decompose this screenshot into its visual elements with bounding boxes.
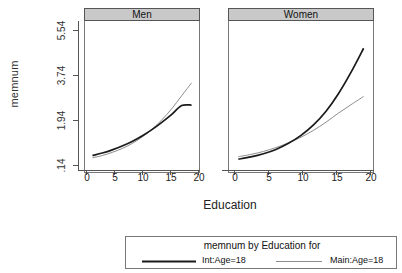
y-tick-mark-3	[73, 30, 78, 31]
y-axis-line	[78, 21, 79, 170]
x-tick-label-women-0: 0	[225, 172, 245, 183]
legend-key-line-main	[276, 260, 322, 263]
panel-women: Women	[228, 8, 374, 173]
y-tick-mark-0	[73, 165, 78, 166]
curves-men	[85, 21, 199, 171]
x-axis-line-women	[222, 170, 374, 171]
legend-label-main: Main:Age=18	[330, 255, 383, 265]
panel-strip-women: Women	[228, 8, 374, 21]
panel-men: Men	[84, 8, 200, 173]
x-tick-label-women-4: 20	[361, 172, 381, 183]
curves-women	[229, 21, 373, 171]
legend: memnum by Education for Int:Age=18 Main:…	[125, 236, 397, 269]
x-tick-label-men-4: 20	[189, 172, 209, 183]
y-axis-label: memnum	[8, 54, 20, 114]
x-axis-line-men	[78, 170, 200, 171]
x-tick-label-women-2: 10	[293, 172, 313, 183]
trellis-chart: memnum .14 1.94 3.74 5.54 Men Women	[0, 0, 402, 273]
y-tick-label-1: 1.94	[56, 104, 67, 138]
y-tick-label-2: 3.74	[56, 59, 67, 93]
plot-area-men	[84, 21, 200, 173]
legend-label-int: Int:Age=18	[202, 255, 246, 265]
x-tick-label-men-1: 5	[105, 172, 125, 183]
y-tick-mark-1	[73, 120, 78, 121]
panel-strip-men: Men	[84, 8, 200, 21]
legend-key-line-int	[142, 260, 196, 263]
legend-title: memnum by Education for	[126, 240, 398, 251]
plot-area-women	[228, 21, 374, 173]
x-axis-label: Education	[85, 198, 375, 212]
y-tick-mark-2	[73, 75, 78, 76]
x-tick-label-women-3: 15	[327, 172, 347, 183]
x-tick-label-women-1: 5	[259, 172, 279, 183]
y-tick-label-3: 5.54	[56, 14, 67, 48]
x-tick-label-men-3: 15	[161, 172, 181, 183]
y-tick-label-0: .14	[56, 149, 67, 183]
x-tick-label-men-2: 10	[133, 172, 153, 183]
x-tick-label-men-0: 0	[77, 172, 97, 183]
legend-entries: Int:Age=18 Main:Age=18	[126, 255, 398, 267]
